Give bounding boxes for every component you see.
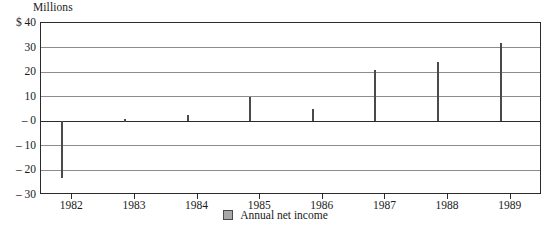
y-axis-tick-label: – 10 <box>0 139 36 151</box>
legend-swatch-icon <box>223 210 233 220</box>
y-axis-tick-label: 30 <box>0 41 36 53</box>
y-axis-tick-label: 20 <box>0 65 36 77</box>
y-axis-tick-label: – 20 <box>0 163 36 175</box>
y-axis-tick-label: $ 40 <box>0 16 36 28</box>
chart-legend: Annual net income <box>0 209 551 221</box>
y-axis-tick-label: 10 <box>0 90 36 102</box>
y-axis-tick-label: – 0 <box>0 114 36 126</box>
annual-net-income-chart: Millions $ 40302010– 0– 10– 20– 30 19821… <box>0 0 551 231</box>
legend-label: Annual net income <box>240 209 328 221</box>
